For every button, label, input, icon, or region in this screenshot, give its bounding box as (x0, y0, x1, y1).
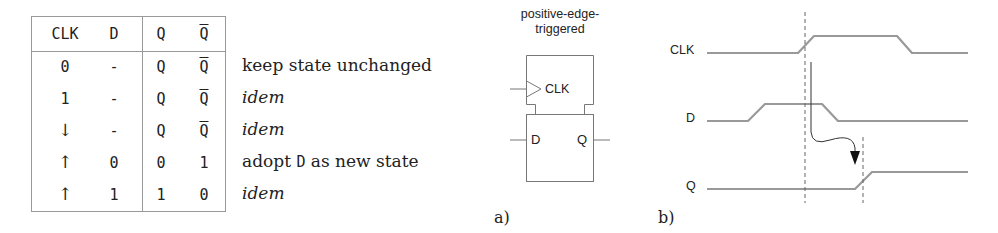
q-waveform (707, 172, 968, 189)
timing-diagram (0, 0, 998, 233)
clk-waveform (707, 36, 968, 53)
arrowhead-icon (850, 151, 860, 165)
causality-arrow (811, 62, 855, 152)
panel-label-b: b) (658, 208, 674, 227)
d-waveform (707, 104, 968, 121)
